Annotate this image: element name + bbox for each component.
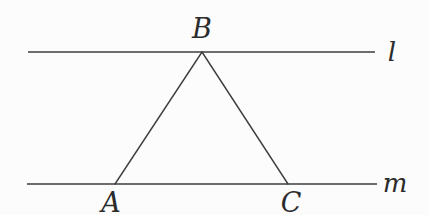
segment-AB xyxy=(115,52,202,184)
parallel-lines-triangle-diagram: B l m A C xyxy=(0,0,429,215)
label-point-C: C xyxy=(281,187,302,215)
label-point-A: A xyxy=(98,187,121,215)
label-point-B: B xyxy=(191,13,212,44)
geometry-figure: B l m A C xyxy=(0,0,429,215)
label-line-m: m xyxy=(383,168,408,198)
label-line-l: l xyxy=(388,37,396,67)
segment-BC xyxy=(202,52,288,184)
